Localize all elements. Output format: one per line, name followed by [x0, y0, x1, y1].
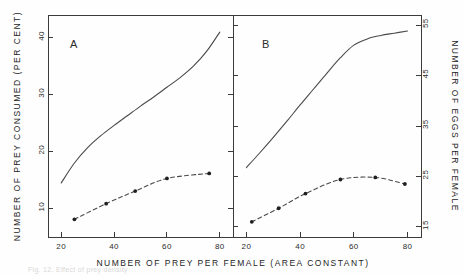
series-prey-A: [61, 32, 220, 183]
y-left-tick-label: 10: [37, 202, 46, 212]
y-right-axis-title: NUMBER OF EGGS PER FEMALE: [450, 40, 460, 212]
data-point-marker: [339, 178, 343, 182]
data-point-marker: [250, 220, 254, 224]
y-left-tick-label: 40: [37, 31, 46, 41]
data-point-marker: [403, 182, 407, 186]
data-point-marker: [304, 192, 308, 196]
x-tick-label: 40: [109, 242, 119, 251]
x-tick-label: 80: [215, 242, 225, 251]
x-tick-label: 20: [242, 242, 252, 251]
figure-caption: Fig. 12. Effect of prey density: [28, 266, 128, 274]
data-point-marker: [73, 217, 77, 221]
scientific-figure: 1020304015253545552040608020406080NUMBER…: [0, 0, 465, 277]
y-right-tick-label: 55: [421, 18, 430, 28]
y-left-tick-label: 20: [37, 145, 46, 155]
y-right-tick-label: 45: [421, 69, 430, 79]
x-tick-label: 20: [56, 242, 66, 251]
y-left-axis-title: NUMBER OF PREY CONSUMED (PER CENT): [12, 11, 22, 241]
x-tick-label: 60: [162, 242, 172, 251]
y-right-tick-label: 15: [421, 220, 430, 230]
data-point-marker: [165, 177, 169, 181]
series-prey-B: [246, 31, 407, 168]
y-right-tick-label: 25: [421, 170, 430, 180]
data-point-marker: [133, 189, 137, 193]
panel-label-B: B: [262, 38, 270, 50]
data-point-marker: [207, 172, 211, 176]
x-tick-label: 40: [295, 242, 305, 251]
plot-layer: 1020304015253545552040608020406080NUMBER…: [12, 11, 460, 268]
series-eggs-B: [252, 177, 405, 222]
data-point-marker: [373, 176, 377, 180]
x-tick-label: 80: [403, 242, 413, 251]
x-axis-title: NUMBER OF PREY PER FEMALE (AREA CONSTANT…: [96, 258, 369, 268]
x-tick-label: 60: [349, 242, 359, 251]
panel-label-A: A: [70, 38, 78, 50]
data-point-marker: [104, 202, 108, 206]
data-point-marker: [277, 206, 281, 210]
figure-container: 1020304015253545552040608020406080NUMBER…: [0, 0, 465, 277]
series-eggs-A: [74, 173, 209, 219]
y-left-tick-label: 30: [37, 88, 46, 98]
y-right-tick-label: 35: [421, 119, 430, 129]
